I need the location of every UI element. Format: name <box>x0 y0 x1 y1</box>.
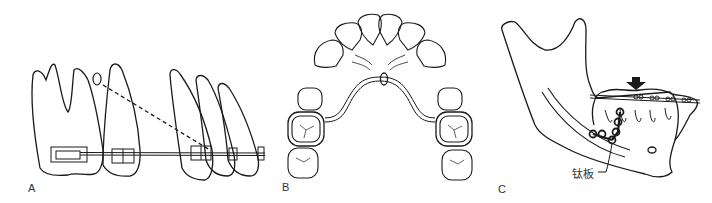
panel-a: A <box>0 0 270 203</box>
panel-b: B <box>270 0 490 203</box>
titanium-plate-annotation: 钛板 <box>572 165 594 181</box>
teeth-lateral-illustration <box>0 0 270 203</box>
panel-label-b: B <box>282 181 289 193</box>
maxillary-arch-occlusal-illustration <box>270 0 490 203</box>
panel-label-c: C <box>498 183 506 195</box>
intrusion-arrow-icon <box>626 77 646 90</box>
panel-c: 钛板 C <box>490 0 712 203</box>
panel-label-a: A <box>28 182 35 194</box>
mandible-lateral-illustration <box>490 0 712 203</box>
